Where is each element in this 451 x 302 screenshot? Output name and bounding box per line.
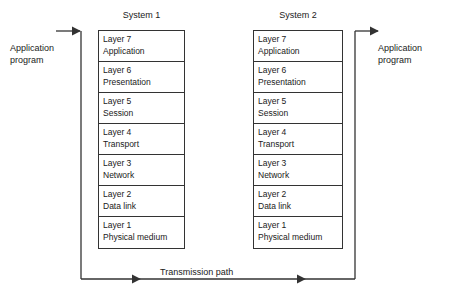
layer-name: Session (103, 107, 184, 119)
layer-number: Layer 4 (103, 126, 184, 138)
layer-box: Layer 5 Session (99, 93, 184, 124)
layer-name: Network (103, 169, 184, 181)
layer-name: Data link (103, 200, 184, 212)
layer-box: Layer 7 Application (99, 31, 184, 62)
osi-model-diagram: System 1 System 2 Layer 7 Application La… (0, 0, 451, 302)
layer-box: Layer 4 Transport (99, 124, 184, 155)
layer-number: Layer 6 (103, 64, 184, 76)
layer-box: Layer 7 Application (254, 31, 342, 62)
right-application-program-line2: program (378, 55, 412, 65)
system-1-layer-stack: Layer 7 Application Layer 6 Presentation… (98, 30, 185, 249)
layer-name: Presentation (103, 76, 184, 88)
left-application-program-line1: Application (10, 43, 54, 53)
system-2-layer-stack: Layer 7 Application Layer 6 Presentation… (253, 30, 343, 249)
layer-box: Layer 3 Network (99, 155, 184, 186)
layer-name: Session (258, 107, 342, 119)
layer-box: Layer 6 Presentation (254, 62, 342, 93)
layer-name: Transport (103, 138, 184, 150)
layer-number: Layer 6 (258, 64, 342, 76)
layer-name: Physical medium (103, 231, 184, 243)
right-application-program-label: Application program (378, 42, 422, 66)
left-application-program-label: Application program (10, 42, 54, 66)
layer-number: Layer 5 (258, 95, 342, 107)
layer-number: Layer 2 (103, 188, 184, 200)
layer-box: Layer 1 Physical medium (254, 217, 342, 248)
right-application-program-line1: Application (378, 43, 422, 53)
layer-number: Layer 7 (103, 33, 184, 45)
layer-number: Layer 1 (103, 219, 184, 231)
layer-name: Presentation (258, 76, 342, 88)
layer-name: Application (103, 45, 184, 57)
layer-number: Layer 1 (258, 219, 342, 231)
layer-box: Layer 5 Session (254, 93, 342, 124)
layer-name: Transport (258, 138, 342, 150)
layer-number: Layer 4 (258, 126, 342, 138)
layer-name: Data link (258, 200, 342, 212)
system-1-title: System 1 (98, 10, 185, 20)
layer-box: Layer 2 Data link (254, 186, 342, 217)
layer-number: Layer 3 (258, 157, 342, 169)
layer-box: Layer 2 Data link (99, 186, 184, 217)
system-2-title: System 2 (253, 10, 343, 20)
layer-box: Layer 3 Network (254, 155, 342, 186)
left-application-program-line2: program (10, 55, 44, 65)
transmission-path-label: Transmission path (160, 267, 233, 277)
layer-name: Network (258, 169, 342, 181)
layer-number: Layer 3 (103, 157, 184, 169)
layer-box: Layer 1 Physical medium (99, 217, 184, 248)
layer-number: Layer 5 (103, 95, 184, 107)
layer-name: Application (258, 45, 342, 57)
layer-box: Layer 6 Presentation (99, 62, 184, 93)
layer-box: Layer 4 Transport (254, 124, 342, 155)
layer-name: Physical medium (258, 231, 342, 243)
layer-number: Layer 2 (258, 188, 342, 200)
layer-number: Layer 7 (258, 33, 342, 45)
